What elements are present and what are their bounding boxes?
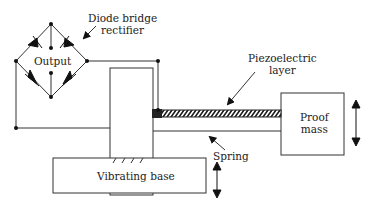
diode-bridge-label-line2: rectifier (88, 24, 157, 36)
spring-label: Spring (213, 150, 249, 162)
piezo-label: Piezoelectric layer (248, 52, 317, 76)
proof-mass-label-line1: Proof (300, 111, 329, 123)
base-motion-arrow (213, 162, 221, 198)
piezo-label-line1: Piezoelectric (248, 52, 317, 64)
piezoelectric-layer (153, 110, 281, 117)
piezo-arrow (228, 72, 255, 104)
proof-mass-label: Proof mass (300, 111, 329, 135)
diode-bridge-label-line1: Diode bridge (88, 12, 157, 24)
diagram-canvas (0, 0, 374, 210)
proof-mass-motion-arrow (352, 100, 360, 146)
output-label: Output (34, 55, 71, 67)
diode-bridge-label: Diode bridge rectifier (88, 12, 157, 36)
piezo-label-line2: layer (248, 64, 317, 76)
vibrating-base-label: Vibrating base (97, 170, 175, 182)
proof-mass-label-line2: mass (300, 123, 329, 135)
spring-arrow (210, 137, 225, 150)
